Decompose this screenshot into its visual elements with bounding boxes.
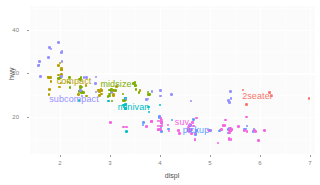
x-tick-label: 3: [108, 160, 111, 166]
scatter-plot-figure: 2seatercompactmidsizeminivanpickupsubcom…: [0, 0, 320, 185]
x-tick-mark: [110, 155, 111, 157]
y-axis-title: hwy: [8, 68, 15, 80]
x-tick-mark: [310, 155, 311, 157]
x-tick-mark: [210, 155, 211, 157]
x-tick-label: 5: [208, 160, 211, 166]
x-axis-title: displ: [165, 172, 179, 179]
x-tick-mark: [260, 155, 261, 157]
x-tick-label: 2: [58, 160, 61, 166]
x-tick-mark: [60, 155, 61, 157]
x-tick-label: 4: [158, 160, 161, 166]
x-tick-mark: [160, 155, 161, 157]
x-tick-label: 7: [308, 160, 311, 166]
x-axis-ticks: 234567: [0, 0, 320, 185]
x-tick-label: 6: [258, 160, 261, 166]
